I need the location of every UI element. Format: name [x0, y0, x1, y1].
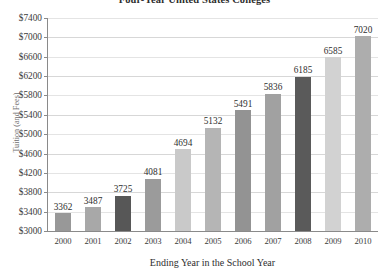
y-tick-label: $3400 — [19, 207, 42, 217]
bar-value-label: 5491 — [234, 99, 253, 109]
bar-group: 61852008 — [288, 18, 318, 231]
bar: 4694 — [175, 149, 191, 231]
y-tick-label: $6600 — [19, 52, 42, 62]
x-tick-label: 2005 — [204, 236, 221, 246]
x-tick-label: 2002 — [114, 236, 131, 246]
bar-chart: Four-Year United States Colleges Tuition… — [0, 0, 389, 279]
bar-value-label: 6585 — [324, 46, 343, 56]
bar: 3487 — [85, 207, 101, 231]
y-tick-label: $5800 — [19, 90, 42, 100]
x-tick-label: 2003 — [144, 236, 161, 246]
bar-group: 40812003 — [138, 18, 168, 231]
x-tick-label: 2008 — [294, 236, 311, 246]
bar-value-label: 4081 — [144, 167, 163, 177]
x-tick-label: 2010 — [354, 236, 371, 246]
bar-value-label: 6185 — [294, 65, 313, 75]
bar: 3362 — [55, 213, 71, 231]
bar-value-label: 4694 — [174, 138, 193, 148]
bar: 5836 — [265, 94, 281, 231]
bar-group: 37252002 — [108, 18, 138, 231]
x-tick-label: 2001 — [84, 236, 101, 246]
bar-group: 46942004 — [168, 18, 198, 231]
x-tick-label: 2007 — [264, 236, 281, 246]
x-axis-title: Ending Year in the School Year — [47, 257, 378, 268]
y-tick-label: $7400 — [19, 13, 42, 23]
bar: 4081 — [145, 179, 161, 231]
bar-group: 54912006 — [228, 18, 258, 231]
plot-area: $3000$3400$3800$4200$4600$5000$5400$5800… — [47, 18, 378, 232]
bar: 6585 — [325, 57, 341, 231]
x-tick-label: 2009 — [324, 236, 341, 246]
bar: 5491 — [235, 110, 251, 231]
bar-value-label: 3362 — [54, 202, 73, 212]
bar-group: 70202010 — [348, 18, 378, 231]
y-tick-label: $4600 — [19, 149, 42, 159]
y-tick-label: $6200 — [19, 71, 42, 81]
y-tick-label: $3800 — [19, 187, 42, 197]
y-tick-label: $4200 — [19, 168, 42, 178]
bar: 7020 — [355, 36, 371, 231]
bar: 5132 — [205, 128, 221, 231]
bar-group: 65852009 — [318, 18, 348, 231]
chart-title: Four-Year United States Colleges — [0, 0, 389, 5]
bar-group: 51322005 — [198, 18, 228, 231]
bar-group: 33622000 — [48, 18, 78, 231]
bar-group: 34872001 — [78, 18, 108, 231]
x-tick-label: 2000 — [54, 236, 71, 246]
x-tick-label: 2004 — [174, 236, 191, 246]
bar-value-label: 3725 — [114, 184, 133, 194]
bar-value-label: 3487 — [84, 196, 103, 206]
y-tick-mark — [44, 231, 48, 232]
bar: 6185 — [295, 77, 311, 231]
bar-value-label: 7020 — [354, 25, 373, 35]
bar-group: 58362007 — [258, 18, 288, 231]
y-tick-label: $5400 — [19, 110, 42, 120]
y-tick-label: $7000 — [19, 32, 42, 42]
bar: 3725 — [115, 196, 131, 231]
bar-value-label: 5836 — [264, 82, 283, 92]
y-tick-label: $5000 — [19, 129, 42, 139]
bar-value-label: 5132 — [204, 116, 223, 126]
x-tick-label: 2006 — [234, 236, 251, 246]
y-tick-label: $3000 — [19, 226, 42, 236]
